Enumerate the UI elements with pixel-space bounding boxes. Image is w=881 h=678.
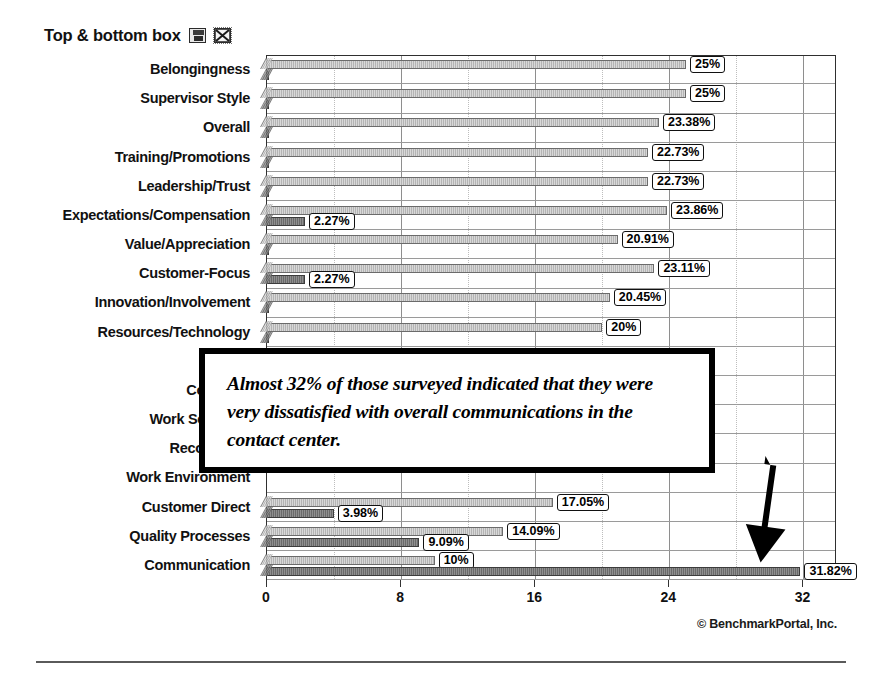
chart-row: 20.45% — [267, 289, 835, 317]
y-axis-label: Belongingness — [150, 55, 250, 83]
y-axis-label: Customer-Focus — [139, 259, 250, 287]
page-title: Top & bottom box — [44, 26, 181, 45]
chart-row: 14.09%9.09% — [267, 523, 835, 551]
bottom-divider — [36, 661, 846, 663]
data-label: 23.11% — [658, 260, 710, 277]
x-axis-tick — [802, 580, 803, 587]
y-axis-label: Customer Direct — [142, 493, 250, 521]
y-axis-label: Supervisor Style — [140, 84, 250, 112]
callout-text: Almost 32% of those surveyed indicated t… — [227, 370, 689, 454]
data-label: 25% — [690, 85, 725, 102]
bar-top-box[interactable] — [267, 235, 618, 244]
bar-top-box[interactable] — [267, 118, 659, 127]
y-axis-label: Quality Processes — [129, 522, 250, 550]
data-label: 20% — [606, 319, 641, 336]
data-label: 31.82% — [804, 563, 856, 580]
bar-top-box[interactable] — [267, 556, 435, 565]
bar-bottom-box[interactable] — [267, 334, 269, 343]
data-label: 23.38% — [663, 114, 715, 131]
bar-bottom-box[interactable] — [267, 100, 269, 109]
y-axis-label: Communication — [144, 551, 250, 579]
callout-box: Almost 32% of those surveyed indicated t… — [199, 348, 715, 473]
x-axis-tick-label: 0 — [262, 589, 270, 605]
bar-bottom-box[interactable] — [267, 188, 269, 197]
chart-row: 20.91% — [267, 231, 835, 259]
x-axis-tick — [400, 580, 401, 587]
plot-area: 25%25%23.38%22.73%22.73%23.86%2.27%20.91… — [266, 55, 836, 580]
x-axis-tick — [266, 580, 267, 587]
y-axis-label: Resources/Technology — [98, 318, 250, 346]
chart-row: 25% — [267, 85, 835, 113]
y-axis-label: Value/Appreciation — [125, 230, 250, 258]
data-label: 25% — [690, 56, 725, 73]
data-label: 3.98% — [338, 505, 383, 522]
x-axis-tick — [668, 580, 669, 587]
data-label: 20.45% — [614, 289, 666, 306]
bar-bottom-box[interactable] — [267, 567, 800, 576]
data-label: 17.05% — [557, 494, 609, 511]
bar-top-box[interactable] — [267, 323, 602, 332]
bar-bottom-box[interactable] — [267, 509, 334, 518]
chart-row: 22.73% — [267, 144, 835, 172]
data-label: 2.27% — [309, 271, 354, 288]
bar-top-box[interactable] — [267, 60, 686, 69]
y-axis-label: Innovation/Involvement — [95, 288, 250, 316]
bar-bottom-box[interactable] — [267, 538, 419, 547]
y-axis-label: Expectations/Compensation — [63, 201, 250, 229]
bar-top-box[interactable] — [267, 89, 686, 98]
bar-top-box[interactable] — [267, 177, 648, 186]
x-axis-tick-label: 24 — [661, 589, 677, 605]
bar-bottom-box[interactable] — [267, 246, 269, 255]
save-icon[interactable] — [189, 28, 206, 43]
chart-row: 23.38% — [267, 114, 835, 142]
bar-bottom-box[interactable] — [267, 159, 269, 168]
data-label: 2.27% — [309, 213, 354, 230]
x-axis: 08162432 — [266, 580, 836, 614]
y-axis-labels: BelongingnessSupervisor StyleOverallTrai… — [0, 55, 258, 580]
chart-row: 23.86%2.27% — [267, 202, 835, 230]
y-axis-label: Training/Promotions — [115, 143, 250, 171]
chart-row: 25% — [267, 56, 835, 84]
x-axis-tick-label: 16 — [526, 589, 542, 605]
data-label: 22.73% — [652, 144, 704, 161]
data-label: 14.09% — [507, 523, 559, 540]
y-axis-label: Overall — [203, 113, 250, 141]
data-label: 9.09% — [423, 534, 468, 551]
chart-row: 17.05%3.98% — [267, 494, 835, 522]
mail-close-icon[interactable] — [214, 28, 231, 43]
y-axis-label: Leadership/Trust — [138, 172, 250, 200]
bar-top-box[interactable] — [267, 148, 648, 157]
bar-bottom-box[interactable] — [267, 275, 305, 284]
chart-row: 22.73% — [267, 173, 835, 201]
x-axis-tick-label: 8 — [396, 589, 404, 605]
chart-header: Top & bottom box — [44, 26, 231, 45]
x-axis-tick — [534, 580, 535, 587]
bar-top-box[interactable] — [267, 498, 553, 507]
x-axis-tick-label: 32 — [795, 589, 811, 605]
bar-bottom-box[interactable] — [267, 304, 269, 313]
chart-row: 23.11%2.27% — [267, 260, 835, 288]
data-label: 20.91% — [622, 231, 674, 248]
data-label: 22.73% — [652, 173, 704, 190]
bar-bottom-box[interactable] — [267, 129, 269, 138]
chart-row: 20% — [267, 319, 835, 347]
bar-bottom-box[interactable] — [267, 71, 269, 80]
data-label: 23.86% — [671, 202, 723, 219]
bar-bottom-box[interactable] — [267, 217, 305, 226]
chart-row: 10%31.82% — [267, 552, 835, 580]
copyright-notice: © BenchmarkPortal, Inc. — [697, 617, 837, 631]
bar-top-box[interactable] — [267, 293, 610, 302]
